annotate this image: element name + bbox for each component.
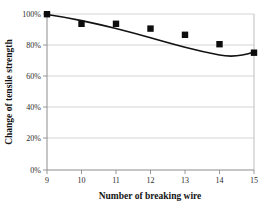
x-tick-label-15: 15 — [250, 176, 258, 185]
y-axis-title: Change of tensile strength — [4, 38, 14, 144]
chart-container: 0% 20% 40% 60% 80% 100% 9 10 11 12 13 14… — [0, 0, 266, 209]
y-tick-label-80: 80% — [26, 41, 41, 50]
y-tick-label-20: 20% — [26, 134, 41, 143]
data-point-13 — [182, 32, 188, 38]
data-point-12 — [147, 25, 153, 31]
y-tick-label-0: 0% — [30, 166, 41, 175]
data-point-15 — [251, 50, 257, 56]
data-point-11 — [113, 21, 119, 27]
x-tick-label-9: 9 — [45, 176, 49, 185]
x-tick-label-11: 11 — [112, 176, 120, 185]
data-point-14 — [216, 41, 222, 47]
x-tick-label-14: 14 — [216, 176, 224, 185]
y-tick-label-60: 60% — [26, 72, 41, 81]
y-tick-label-100: 100% — [22, 10, 41, 19]
y-tick-label-40: 40% — [26, 103, 41, 112]
x-tick-label-10: 10 — [78, 176, 86, 185]
x-axis-title: Number of breaking wire — [99, 191, 202, 201]
x-tick-label-12: 12 — [147, 176, 155, 185]
data-point-9 — [44, 11, 50, 17]
x-tick-label-13: 13 — [181, 176, 189, 185]
data-point-10 — [78, 21, 84, 27]
tensile-strength-line-chart: 0% 20% 40% 60% 80% 100% 9 10 11 12 13 14… — [0, 0, 266, 209]
